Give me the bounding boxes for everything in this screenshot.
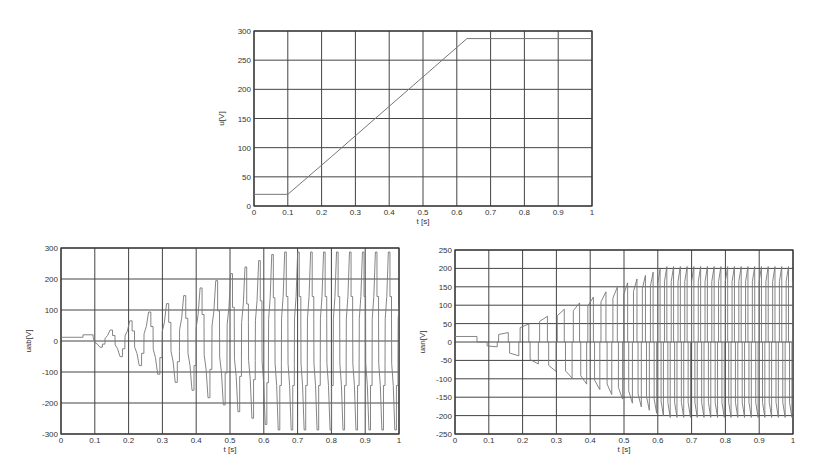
y-tick-label: 50: [443, 320, 452, 329]
x-tick-label: 0.1: [282, 208, 294, 217]
y-tick-label: 250: [238, 56, 252, 65]
x-tick-label: 0.7: [686, 436, 698, 445]
y-tick-label: 100: [238, 144, 252, 153]
x-tick-label: 0.3: [350, 208, 362, 217]
x-tick-label: 0.5: [224, 436, 236, 445]
y-tick-label: -100: [436, 375, 453, 384]
y-tick-label: -100: [42, 368, 59, 377]
y-tick-label: 0: [247, 202, 252, 211]
y-tick-label: 200: [45, 275, 59, 284]
x-axis-label: t [s]: [417, 217, 430, 226]
x-tick-label: 0.9: [754, 436, 766, 445]
x-tick-label: 0.6: [258, 436, 270, 445]
x-tick-label: 0.1: [483, 436, 495, 445]
x-tick-label: 0.6: [652, 436, 664, 445]
x-tick-label: 0.4: [191, 436, 203, 445]
x-tick-label: 0: [252, 208, 257, 217]
y-tick-label: 0: [448, 338, 453, 347]
x-axis-label: t [s]: [224, 445, 237, 454]
x-tick-label: 0.8: [519, 208, 531, 217]
x-tick-label: 0.6: [451, 208, 463, 217]
y-tick-label: -200: [42, 399, 59, 408]
y-tick-label: -300: [42, 430, 59, 439]
x-tick-label: 0: [59, 436, 64, 445]
y-tick-label: -250: [436, 430, 453, 439]
x-tick-label: 1: [397, 436, 402, 445]
x-tick-label: 1: [590, 208, 595, 217]
x-tick-label: 0.2: [316, 208, 328, 217]
y-tick-label: 50: [242, 173, 251, 182]
x-tick-label: 0.5: [618, 436, 630, 445]
x-tick-label: 0.7: [485, 208, 497, 217]
y-tick-label: 100: [45, 306, 59, 315]
x-tick-label: 0.2: [123, 436, 135, 445]
y-tick-label: 300: [238, 27, 252, 36]
x-tick-label: 1: [791, 436, 796, 445]
x-tick-label: 0.9: [360, 436, 372, 445]
y-axis-label: uan[V]: [418, 330, 427, 353]
y-axis-label: uab[V]: [24, 329, 33, 352]
y-tick-label: 150: [238, 115, 252, 124]
x-tick-label: 0.8: [720, 436, 732, 445]
x-tick-label: 0.7: [292, 436, 304, 445]
x-axis-label: t [s]: [618, 445, 631, 454]
y-tick-label: -200: [436, 412, 453, 421]
y-tick-label: -50: [440, 356, 452, 365]
x-tick-label: 0.1: [89, 436, 101, 445]
y-tick-label: 300: [45, 244, 59, 253]
x-tick-label: 0.3: [551, 436, 563, 445]
y-tick-label: 200: [439, 264, 453, 273]
x-tick-label: 0.2: [517, 436, 529, 445]
x-tick-label: 0.8: [326, 436, 338, 445]
x-tick-label: 0.5: [417, 208, 429, 217]
y-axis-label: u[V]: [217, 111, 226, 125]
y-tick-label: 150: [439, 283, 453, 292]
figure-canvas: 00.10.20.30.40.50.60.70.80.9105010015020…: [0, 0, 818, 471]
chart-voltage-ramp: 00.10.20.30.40.50.60.70.80.9105010015020…: [217, 27, 595, 226]
y-tick-label: 100: [439, 301, 453, 310]
x-tick-label: 0.4: [384, 208, 396, 217]
y-tick-label: 250: [439, 246, 453, 255]
x-tick-label: 0.4: [585, 436, 597, 445]
x-tick-label: 0.9: [553, 208, 565, 217]
x-tick-label: 0.3: [157, 436, 169, 445]
chart-line-voltage: 00.10.20.30.40.50.60.70.80.91-300-200-10…: [24, 244, 404, 454]
y-tick-label: 0: [54, 337, 59, 346]
y-tick-label: -150: [436, 393, 453, 402]
x-tick-label: 0: [453, 436, 458, 445]
chart-phase-voltage: 00.10.20.30.40.50.60.70.80.91-250-200-15…: [418, 246, 796, 454]
y-tick-label: 200: [238, 85, 252, 94]
